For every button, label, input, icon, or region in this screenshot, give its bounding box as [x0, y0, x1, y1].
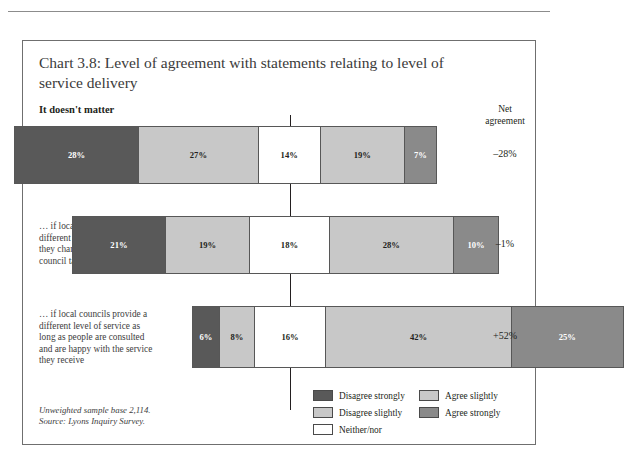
chart-footnote: Unweighted sample base 2,114. Source: Ly… [39, 405, 239, 427]
footnote-sample-base: Unweighted sample base 2,114. [39, 405, 239, 416]
legend-swatch [313, 407, 333, 418]
page-header-rule [8, 11, 550, 12]
legend-label: Neither/nor [339, 425, 382, 435]
legend-label: Agree slightly [445, 391, 498, 401]
bar-segment: 19% [321, 127, 405, 183]
stacked-bar: 6%8%16%42%25% [192, 306, 624, 368]
stacked-bar: 28%27%14%19%7% [14, 126, 437, 184]
net-agreement-value: +52% [475, 330, 535, 341]
legend-column-left: Disagree stronglyDisagree slightlyNeithe… [313, 389, 419, 440]
chart-axis-line [290, 368, 291, 410]
legend-item: Disagree strongly [313, 389, 419, 402]
legend-label: Disagree strongly [339, 391, 405, 401]
legend-column-right: Agree slightlyAgree strongly [419, 389, 525, 440]
legend-swatch [419, 390, 439, 401]
bar-segment: 27% [139, 127, 259, 183]
chart-figure-frame: Chart 3.8: Level of agreement with state… [22, 40, 536, 445]
footnote-source: Source: Lyons Inquiry Survey. [39, 416, 239, 427]
stacked-bar: 21%19%18%28%10% [72, 216, 499, 274]
bar-segment: 14% [259, 127, 321, 183]
legend-item: Neither/nor [313, 423, 419, 436]
legend-label: Agree strongly [445, 408, 501, 418]
bar-segment: 28% [330, 217, 454, 273]
bar-segment: 8% [220, 307, 255, 367]
legend-item: Agree strongly [419, 406, 525, 419]
legend-label: Disagree slightly [339, 408, 402, 418]
net-agreement-value: –28% [475, 148, 535, 159]
legend-swatch [313, 390, 333, 401]
bar-segment: 28% [15, 127, 139, 183]
page-running-header [36, 0, 336, 6]
bar-segment: 19% [166, 217, 250, 273]
statement-label: … if local councils provide a different … [39, 309, 157, 367]
bar-segment: 21% [73, 217, 166, 273]
bar-segment: 16% [255, 307, 326, 367]
legend-swatch [419, 407, 439, 418]
bar-segment: 6% [193, 307, 220, 367]
chart-legend: Disagree stronglyDisagree slightlyNeithe… [313, 389, 525, 440]
legend-swatch [313, 424, 333, 435]
chart-plot-area: … if local levels of service are not the… [23, 41, 537, 446]
net-agreement-value: –1% [475, 238, 535, 249]
legend-item: Disagree slightly [313, 406, 419, 419]
bar-segment: 18% [250, 217, 330, 273]
bar-segment: 7% [405, 127, 436, 183]
legend-item: Agree slightly [419, 389, 525, 402]
